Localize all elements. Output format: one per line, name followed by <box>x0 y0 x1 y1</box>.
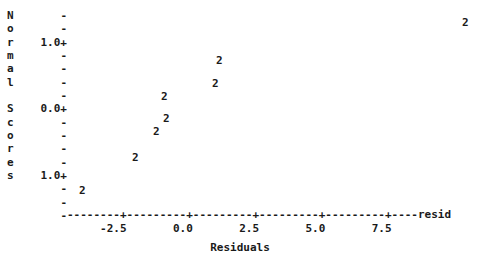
x-axis-title: Residuals <box>0 241 480 254</box>
data-point: 2 <box>153 125 160 138</box>
x-axis-tick-labels: -2.5 0.0 2.5 5.0 7.5 <box>67 222 392 236</box>
data-point: 2 <box>163 112 170 125</box>
data-point: 2 <box>161 90 168 103</box>
x-axis-line: --------+---------+---------+---------+-… <box>67 208 451 222</box>
data-point: 2 <box>212 77 219 90</box>
normal-probability-plot: N o r m a l S c o r e s - - 1.0+ - - - -… <box>0 0 495 268</box>
data-point: 2 <box>462 16 469 29</box>
data-point: 2 <box>216 54 223 67</box>
data-point: 2 <box>79 184 86 197</box>
data-point: 2 <box>132 151 139 164</box>
plot-data-region: 22222222 <box>0 9 495 214</box>
